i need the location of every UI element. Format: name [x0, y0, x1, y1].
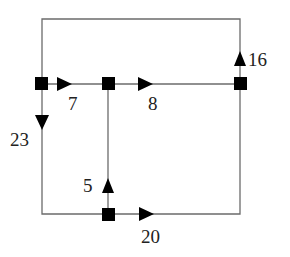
label-top-loop: 16 [248, 49, 267, 70]
arrow-up-icon [234, 51, 246, 66]
label-b-c: 8 [148, 93, 158, 114]
label-a-b: 7 [68, 93, 78, 114]
node-d [102, 208, 115, 221]
label-d-b: 5 [83, 175, 93, 196]
arrow-right-icon [139, 207, 154, 221]
node-c [234, 77, 247, 90]
node-b [102, 77, 115, 90]
arrow-right-icon [138, 77, 153, 91]
arrow-down-icon [35, 115, 49, 130]
arrows [35, 51, 246, 221]
node-a [35, 77, 48, 90]
nodes [35, 77, 247, 221]
label-bottom-loop: 20 [141, 226, 160, 247]
arrow-right-icon [57, 77, 72, 91]
edges [42, 19, 240, 214]
arrow-up-icon [102, 178, 114, 193]
edge-top-loop [42, 19, 240, 84]
label-left-loop: 23 [10, 129, 29, 150]
flow-diagram: 7 8 16 23 5 20 [0, 0, 290, 257]
edge-bottom-right-loop [108, 84, 240, 214]
